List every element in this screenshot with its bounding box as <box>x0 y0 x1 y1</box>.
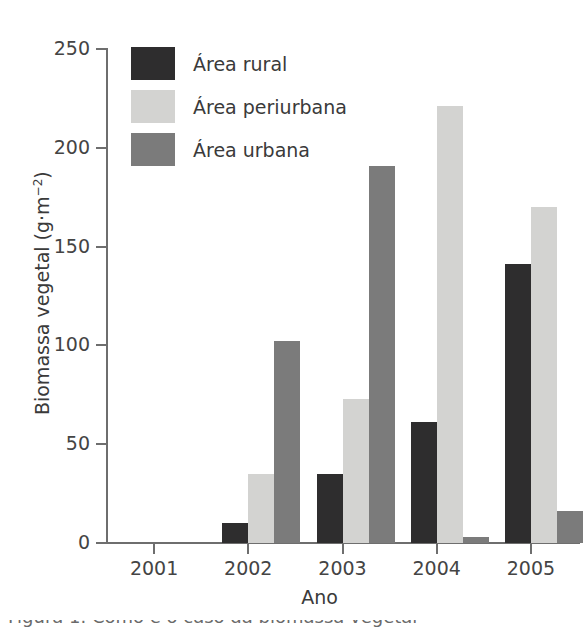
caption-cutoff-text: Figura 1. Como é o caso da biomassa vege… <box>8 620 417 627</box>
legend-label: Área rural <box>193 53 287 75</box>
y-axis-title-close: ) <box>31 171 53 178</box>
x-tick-mark <box>247 544 249 554</box>
bar <box>557 511 583 543</box>
x-tick-mark <box>436 544 438 554</box>
legend-item: Área periurbana <box>131 85 347 128</box>
x-axis-title: Ano <box>0 586 587 608</box>
bar <box>343 399 369 543</box>
bar <box>411 422 437 543</box>
legend-label: Área periurbana <box>193 96 347 118</box>
y-axis-title: Biomassa vegetal (g·m−2) <box>31 73 53 513</box>
bar <box>463 537 489 543</box>
caption-cutoff: Figura 1. Como é o caso da biomassa vege… <box>0 620 587 633</box>
y-tick-mark <box>96 246 106 248</box>
legend-swatch <box>131 133 175 166</box>
x-tick-label: 2003 <box>298 558 388 579</box>
y-axis-title-main: Biomassa vegetal (g·m <box>31 196 53 415</box>
bar <box>437 106 463 543</box>
y-tick-mark <box>96 542 106 544</box>
y-tick-label: 0 <box>28 533 90 552</box>
legend-item: Área rural <box>131 42 347 85</box>
x-tick-mark <box>153 544 155 554</box>
y-tick-mark <box>96 147 106 149</box>
x-tick-label: 2005 <box>486 558 576 579</box>
y-tick-mark <box>96 48 106 50</box>
legend: Área ruralÁrea periurbanaÁrea urbana <box>131 42 347 171</box>
bar <box>274 341 300 543</box>
legend-swatch <box>131 90 175 123</box>
bar <box>222 523 248 543</box>
y-tick-label: 250 <box>28 39 90 58</box>
x-tick-mark <box>530 544 532 554</box>
bar <box>369 166 395 543</box>
y-axis-title-exponent: −2 <box>31 179 45 197</box>
y-tick-mark <box>96 344 106 346</box>
x-tick-label: 2001 <box>109 558 199 579</box>
x-tick-label: 2004 <box>392 558 482 579</box>
bar <box>317 474 343 543</box>
bar <box>505 264 531 543</box>
legend-swatch <box>131 47 175 80</box>
x-tick-mark <box>342 544 344 554</box>
bar <box>248 474 274 543</box>
y-tick-mark <box>96 443 106 445</box>
legend-item: Área urbana <box>131 128 347 171</box>
bar <box>531 207 557 543</box>
legend-label: Área urbana <box>193 139 310 161</box>
x-tick-label: 2002 <box>203 558 293 579</box>
x-axis-title-label: Ano <box>249 586 338 608</box>
bar-chart-figure: 050100150200250 20012002200320042005 Bio… <box>0 0 587 633</box>
